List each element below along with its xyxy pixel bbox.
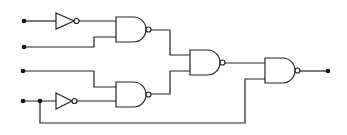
nand-gate-nand3 <box>190 50 225 75</box>
nand-gate-nand4 <box>265 58 300 83</box>
wire <box>151 30 190 55</box>
not-gate-not2 <box>56 93 77 109</box>
wire <box>24 37 116 47</box>
inversion-bubble-icon <box>220 60 225 65</box>
input-terminal-in4 <box>21 99 26 104</box>
input-terminal-in1 <box>22 19 27 24</box>
nand-gate-nand2 <box>116 82 151 107</box>
not-gate-not1 <box>56 13 79 29</box>
nand-body-icon <box>116 17 146 42</box>
output-terminal <box>326 69 331 74</box>
input-terminal-in2 <box>22 45 27 50</box>
wire <box>151 71 190 94</box>
inversion-bubble-icon <box>72 99 77 104</box>
inverter-triangle-icon <box>56 13 74 29</box>
nand-body-icon <box>116 82 146 107</box>
inverter-triangle-icon <box>56 93 72 109</box>
input-terminal-in3 <box>21 69 26 74</box>
nand-body-icon <box>190 50 220 75</box>
nand-body-icon <box>265 58 295 83</box>
gates <box>56 13 300 109</box>
nand-gate-nand1 <box>116 17 151 42</box>
inversion-bubble-icon <box>146 92 151 97</box>
inversion-bubble-icon <box>295 68 300 73</box>
wire-junction <box>38 99 43 104</box>
logic-circuit-diagram <box>0 0 347 135</box>
wire <box>23 71 116 87</box>
inversion-bubble-icon <box>146 27 151 32</box>
inversion-bubble-icon <box>74 19 79 24</box>
